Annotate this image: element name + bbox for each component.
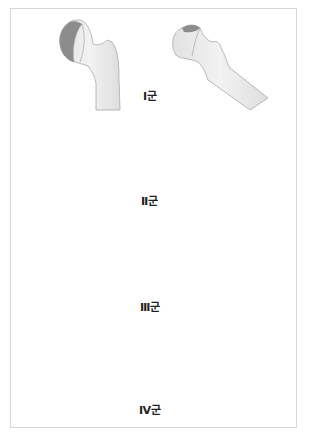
- group-1-label: Ⅰ군: [143, 91, 156, 102]
- group-2-label: Ⅱ군: [141, 196, 157, 207]
- group-1-lateral-femur: [173, 25, 268, 110]
- group-1-frontal-femur: [60, 20, 120, 110]
- femoral-head-diagram: [0, 0, 309, 443]
- group-3-label: Ⅲ군: [140, 302, 159, 313]
- group-4-label: Ⅳ군: [139, 405, 160, 416]
